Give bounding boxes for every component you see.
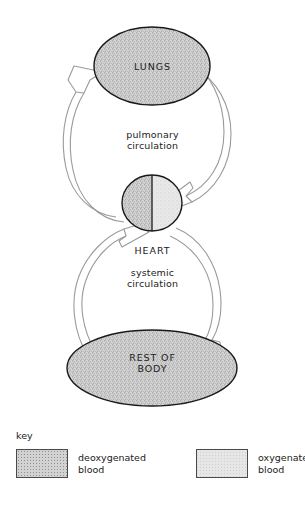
node-label-heart: HEART xyxy=(0,245,305,256)
key-swatch-oxygenated xyxy=(196,449,248,478)
key-swatch-deoxygenated xyxy=(16,449,68,478)
circulation-diagram: LUNGS pulmonary circulation HEART system… xyxy=(0,0,305,521)
key-label-oxygenated: oxygenated blood xyxy=(258,452,305,475)
key-label-deoxygenated: deoxygenated blood xyxy=(78,452,146,475)
key-title: key xyxy=(16,430,33,441)
node-label-body: REST OF BODY xyxy=(0,352,305,374)
key-entry-deoxygenated: deoxygenated blood xyxy=(16,449,146,478)
key-entry-oxygenated: oxygenated blood xyxy=(196,449,305,478)
circuit-label-systemic: systemic circulation xyxy=(0,267,305,289)
circuit-label-pulmonary: pulmonary circulation xyxy=(0,129,305,151)
node-label-lungs: LUNGS xyxy=(0,61,305,72)
diagram-canvas xyxy=(0,0,305,521)
node-heart xyxy=(122,175,182,231)
